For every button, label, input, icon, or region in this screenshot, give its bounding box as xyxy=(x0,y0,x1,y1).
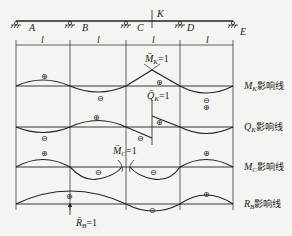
svg-text:⊕: ⊕ xyxy=(41,72,48,81)
label-rb: RB影响线 xyxy=(243,198,281,211)
sign-markers: ⊖⊕⊖⊕⊕ xyxy=(41,103,210,143)
unit-load-rb: R̄B=1 xyxy=(75,217,97,230)
label-mc: MC影响线 xyxy=(243,161,284,174)
label-mk: MK影响线 xyxy=(243,80,284,93)
svg-text:⊕: ⊕ xyxy=(93,113,100,122)
svg-text:⊖: ⊖ xyxy=(95,168,102,177)
support-label-a: A xyxy=(28,22,36,33)
svg-text:⊕: ⊕ xyxy=(203,190,210,199)
svg-text:⊖: ⊖ xyxy=(137,134,144,143)
svg-text:⊕: ⊕ xyxy=(203,103,210,112)
sign-markers: ⊕⊖⊕ xyxy=(66,190,210,215)
svg-text:⊖: ⊖ xyxy=(149,206,156,215)
support-label-b: B xyxy=(82,22,88,33)
influence-curve-mc xyxy=(16,160,233,180)
support-label-d: D xyxy=(186,22,195,33)
unit-load-mk: M̄K=1 xyxy=(144,53,169,66)
dimension-ticks xyxy=(16,40,233,210)
svg-text:⊕: ⊕ xyxy=(203,149,210,158)
influence-curve-rb xyxy=(16,191,233,211)
svg-text:⊕: ⊕ xyxy=(66,192,73,201)
influence-curve-mk xyxy=(16,70,233,93)
label-qk: QK影响线 xyxy=(244,121,283,134)
svg-text:⊕: ⊕ xyxy=(156,78,163,87)
svg-text:⊖: ⊖ xyxy=(41,134,48,143)
span-label: l xyxy=(41,34,44,45)
span-label: l xyxy=(97,34,100,45)
span-label: l xyxy=(206,34,209,45)
svg-text:⊕: ⊕ xyxy=(156,118,163,127)
influence-line-diagram: A B C D E K l l l l M̄K=1 ⊕⊖⊕⊖ MK影响线 Q̄K… xyxy=(0,0,292,236)
unit-load-qk: Q̄K=1 xyxy=(147,90,170,103)
support-label-e: E xyxy=(239,26,246,37)
support-icons xyxy=(11,21,238,28)
svg-text:⊖: ⊖ xyxy=(150,168,157,177)
svg-text:⊖: ⊖ xyxy=(97,94,104,103)
svg-text:⊕: ⊕ xyxy=(41,149,48,158)
section-label-k: K xyxy=(156,8,165,19)
span-label: l xyxy=(152,34,155,45)
support-label-c: C xyxy=(137,22,144,33)
unit-load-mc: M̄C=1 xyxy=(112,145,137,158)
